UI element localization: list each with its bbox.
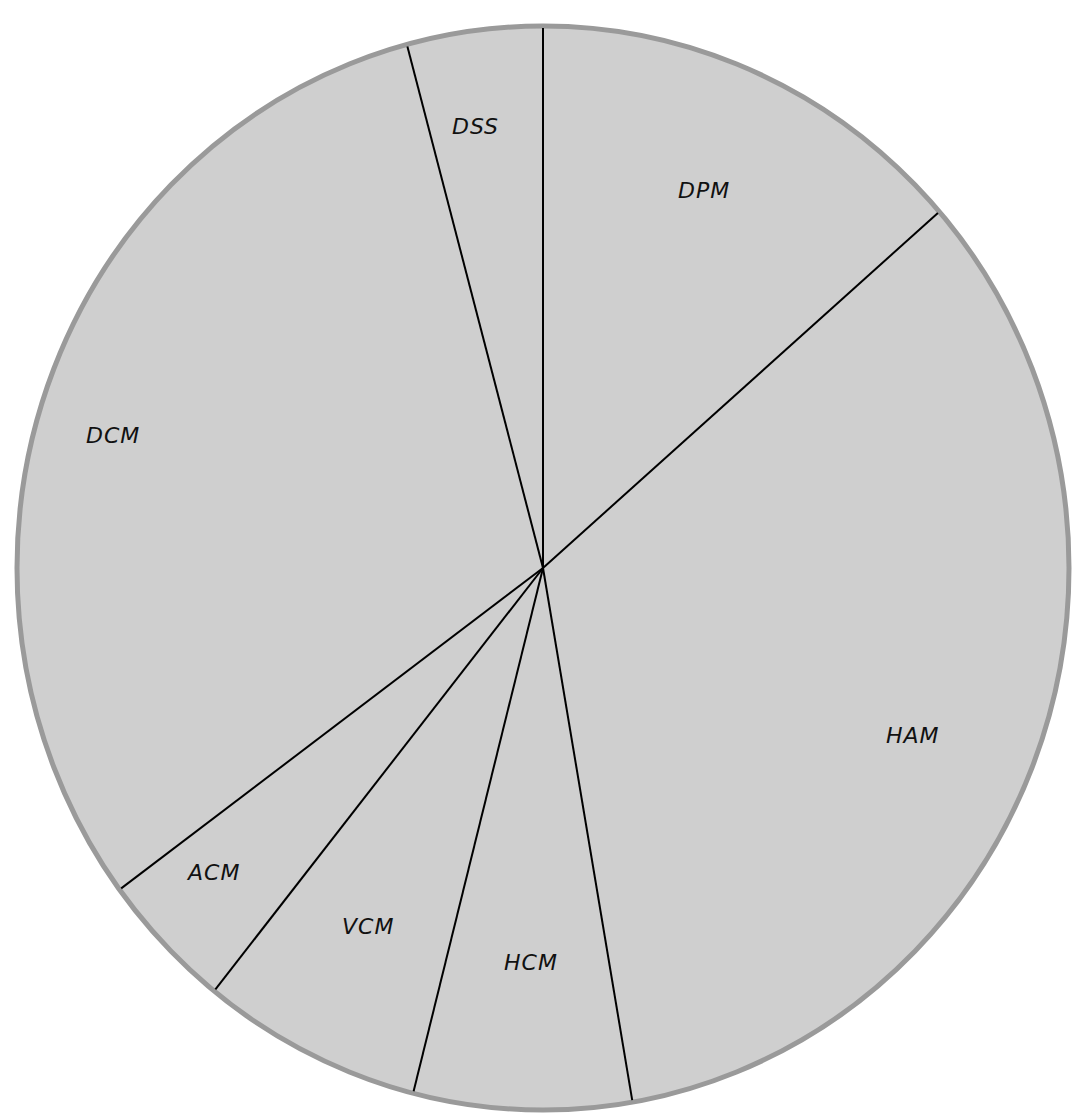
slice-label-dpm: DPM: [678, 178, 730, 203]
slice-label-dss: DSS: [452, 114, 499, 139]
slice-label-hcm: HCM: [504, 950, 558, 975]
pie-chart-svg: DSS DPM DCM HAM ACM VCM HCM: [0, 0, 1083, 1119]
slice-label-dcm: DCM: [86, 423, 140, 448]
slice-label-vcm: VCM: [342, 914, 394, 939]
slice-label-acm: ACM: [186, 860, 240, 885]
slice-label-ham: HAM: [886, 723, 940, 748]
pie-chart: DSS DPM DCM HAM ACM VCM HCM: [0, 0, 1083, 1119]
